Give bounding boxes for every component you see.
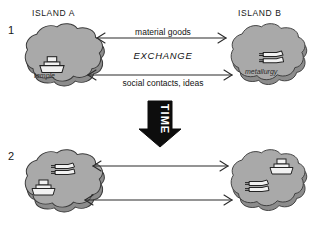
center-label-exchange: EXCHANGE	[110, 50, 216, 61]
island-a-title: ISLAND A	[32, 8, 75, 18]
panel-2-number: 2	[8, 150, 14, 162]
island-b-title: ISLAND B	[238, 8, 282, 18]
panel-2-flow-top-arrow	[93, 161, 228, 171]
flow-label-material-goods: material goods	[113, 27, 213, 37]
time-arrow-label: TIME	[159, 99, 171, 139]
metallurgy-caption: metallurgy	[245, 68, 277, 75]
flow-label-social-contacts: social contacts, ideas	[105, 78, 221, 88]
panel-2-flow-bottom-arrow	[85, 195, 232, 205]
temple-caption: temple	[34, 72, 55, 79]
panel-1-number: 1	[8, 24, 14, 36]
diagram-canvas: 1 2 ISLAND A ISLAND B temple metallurgy …	[0, 0, 320, 227]
